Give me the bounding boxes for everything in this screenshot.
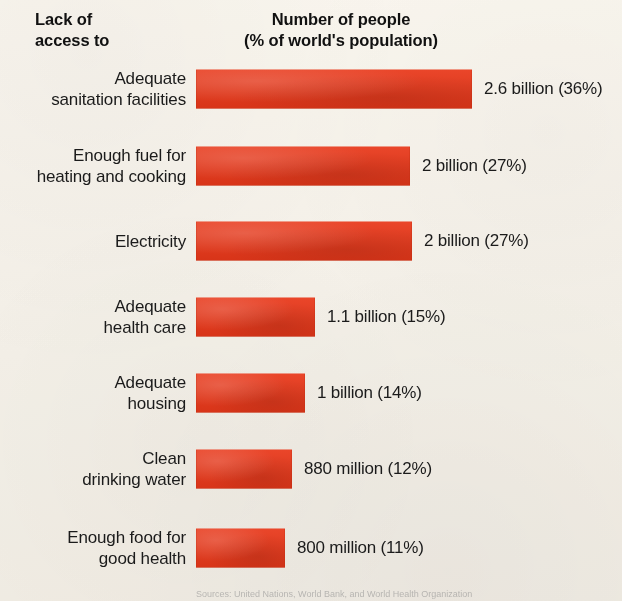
bar (196, 70, 472, 109)
category-label: Adequate health care (0, 296, 186, 338)
bar (196, 222, 412, 261)
bar-chart-figure: Lack of access to Number of people (% of… (0, 0, 622, 601)
bar (196, 529, 285, 568)
column-header-values: Number of people (% of world's populatio… (196, 9, 486, 51)
bar (196, 374, 305, 413)
category-label: Adequate sanitation facilities (0, 68, 186, 110)
value-label: 1.1 billion (15%) (327, 307, 446, 327)
category-label: Electricity (0, 231, 186, 252)
column-header-categories: Lack of access to (35, 9, 109, 51)
value-label: 800 million (11%) (297, 538, 424, 558)
value-label: 2.6 billion (36%) (484, 79, 603, 99)
source-note: Sources: United Nations, World Bank, and… (196, 589, 616, 600)
bar (196, 147, 410, 186)
bar (196, 298, 315, 337)
value-label: 2 billion (27%) (424, 231, 529, 251)
category-label: Enough fuel for heating and cooking (0, 145, 186, 187)
chart-row: Adequate housing1 billion (14%) (0, 371, 622, 415)
value-label: 880 million (12%) (304, 459, 432, 479)
category-label: Adequate housing (0, 372, 186, 414)
bar (196, 450, 292, 489)
chart-row: Electricity2 billion (27%) (0, 219, 622, 263)
value-label: 2 billion (27%) (422, 156, 527, 176)
chart-row: Enough food for good health800 million (… (0, 526, 622, 570)
chart-row: Clean drinking water880 million (12%) (0, 447, 622, 491)
value-label: 1 billion (14%) (317, 383, 422, 403)
chart-row: Adequate health care1.1 billion (15%) (0, 295, 622, 339)
category-label: Clean drinking water (0, 448, 186, 490)
category-label: Enough food for good health (0, 527, 186, 569)
chart-row: Enough fuel for heating and cooking2 bil… (0, 144, 622, 188)
chart-row: Adequate sanitation facilities2.6 billio… (0, 67, 622, 111)
